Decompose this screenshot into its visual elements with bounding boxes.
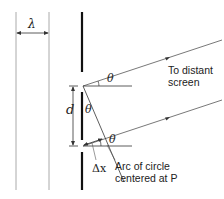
screen-note-line1: To distant (168, 64, 213, 76)
arc-note: Arc of circle centered at P (115, 160, 177, 184)
angle-upper-label: θ (107, 72, 114, 85)
arc-note-line1: Arc of circle (115, 160, 177, 172)
path-difference-label: Δx (92, 162, 106, 175)
path-difference-arrow (84, 139, 102, 145)
screen-note: To distant screen (168, 64, 213, 88)
arc-note-line2: centered at P (115, 172, 177, 184)
dx-leader (92, 143, 96, 160)
angle-lower-label: θ (109, 133, 116, 146)
screen-note-line2: screen (168, 76, 213, 88)
wavelength-label: λ (28, 17, 36, 31)
lower-ray (83, 100, 222, 146)
arc-leader (107, 145, 115, 160)
slit-separation-label: d (66, 102, 74, 117)
angle-middle-label: θ (85, 103, 92, 116)
